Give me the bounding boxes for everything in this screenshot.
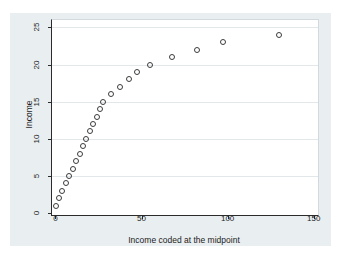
y-gridline bbox=[52, 102, 318, 103]
data-point bbox=[90, 121, 96, 127]
data-point bbox=[126, 76, 132, 82]
y-axis-tick bbox=[48, 139, 51, 140]
x-tick-label: 50 bbox=[137, 214, 146, 223]
data-point bbox=[100, 99, 106, 105]
y-axis-tick bbox=[48, 65, 51, 66]
y-tick-label: 25 bbox=[32, 23, 41, 32]
data-point bbox=[134, 69, 140, 75]
y-axis-tick bbox=[48, 176, 51, 177]
data-point bbox=[87, 128, 93, 134]
data-point bbox=[59, 188, 65, 194]
y-gridline bbox=[52, 139, 318, 140]
y-gridline bbox=[52, 65, 318, 66]
data-point bbox=[117, 84, 123, 90]
y-gridline bbox=[52, 27, 318, 28]
data-point bbox=[276, 32, 282, 38]
data-point bbox=[83, 136, 89, 142]
x-tick-label: 0 bbox=[53, 214, 57, 223]
x-axis-title: Income coded at the midpoint bbox=[51, 235, 317, 245]
data-point bbox=[56, 195, 62, 201]
data-point bbox=[169, 54, 175, 60]
data-point bbox=[94, 114, 100, 120]
data-point bbox=[194, 47, 200, 53]
data-point bbox=[147, 62, 153, 68]
data-point bbox=[80, 143, 86, 149]
data-point bbox=[97, 106, 103, 112]
y-axis-tick bbox=[48, 102, 51, 103]
data-point bbox=[73, 158, 79, 164]
plot-area: 0510152025 bbox=[51, 19, 319, 216]
data-point bbox=[63, 180, 69, 186]
y-tick-label: 0 bbox=[32, 211, 41, 215]
y-axis-tick bbox=[48, 213, 51, 214]
data-point bbox=[66, 173, 72, 179]
y-axis-tick bbox=[48, 27, 51, 28]
graph-region: 0510152025 Income coded at the midpoint … bbox=[10, 13, 331, 246]
x-tick-label: 150 bbox=[307, 214, 320, 223]
x-tick-label: 100 bbox=[221, 214, 234, 223]
data-point bbox=[108, 91, 114, 97]
data-point bbox=[220, 39, 226, 45]
stata-graph-window: 0510152025 Income coded at the midpoint … bbox=[0, 0, 342, 261]
data-point bbox=[53, 203, 59, 209]
data-point bbox=[77, 151, 83, 157]
y-tick-label: 10 bbox=[32, 134, 41, 143]
y-axis-title: Income bbox=[24, 110, 33, 119]
y-tick-label: 5 bbox=[32, 174, 41, 178]
data-point bbox=[70, 166, 76, 172]
y-tick-label: 20 bbox=[32, 60, 41, 69]
y-gridline bbox=[52, 176, 318, 177]
